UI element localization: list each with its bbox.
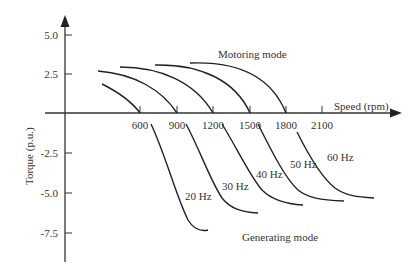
- x-tick-label: 1200: [202, 119, 225, 131]
- curve-50hz: [155, 65, 344, 201]
- x-axis-label: Speed (rpm): [334, 100, 389, 113]
- x-ticks: [140, 106, 322, 113]
- series-label-40hz: 40 Hz: [256, 168, 283, 180]
- x-tick-label: 900: [169, 119, 186, 131]
- y-tick-label: -7.5: [41, 227, 59, 239]
- series-label-60hz: 60 Hz: [327, 151, 354, 163]
- y-ticks: [65, 35, 72, 233]
- x-axis-arrow-icon: [390, 109, 402, 118]
- x-tick-label: 1800: [275, 119, 298, 131]
- y-tick-label: -2.5: [41, 147, 59, 159]
- series-label-50hz: 50 Hz: [290, 158, 317, 170]
- y-axis-arrow-icon: [61, 15, 70, 27]
- torque-speed-chart: 5.0 2.5 -2.5 -5.0 -7.5 600 900 1200 1500…: [0, 0, 417, 272]
- y-axis-label: Torque (p.u.): [23, 127, 36, 185]
- generating-mode-annotation: Generating mode: [242, 231, 318, 243]
- curve-20hz: [102, 84, 208, 231]
- series-label-30hz: 30 Hz: [222, 180, 249, 192]
- y-tick-label: 5.0: [44, 29, 58, 41]
- y-tick-label: 2.5: [44, 68, 58, 80]
- x-tick-label: 2100: [311, 119, 334, 131]
- series-label-20hz: 20 Hz: [185, 190, 212, 202]
- motoring-mode-annotation: Motoring mode: [218, 48, 287, 60]
- curve-40hz: [120, 67, 303, 205]
- torque-curves: [98, 63, 374, 231]
- y-tick-label: -5.0: [41, 187, 59, 199]
- x-tick-label: 600: [132, 119, 149, 131]
